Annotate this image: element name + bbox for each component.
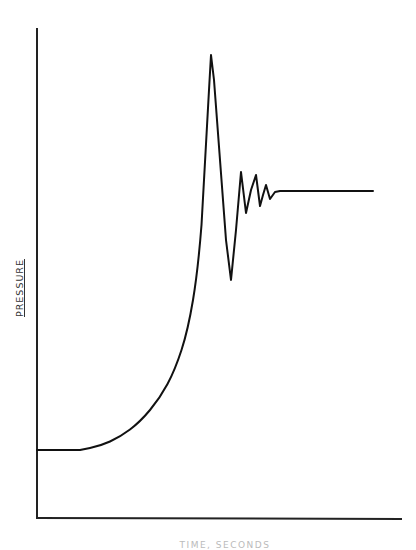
x-axis-label: TIME, SECONDS — [150, 540, 300, 550]
x-axis — [36, 518, 402, 519]
y-axis-label: PRESSURE — [14, 243, 28, 333]
pressure-curve — [37, 55, 373, 450]
